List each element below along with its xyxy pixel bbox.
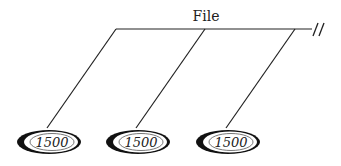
continuation-mark-icon [313,23,324,36]
diagram-title: File [193,8,220,24]
storage-node-2: 1500 [106,130,170,154]
node-label-1: 1500 [35,135,68,150]
storage-node-1: 1500 [17,130,81,154]
storage-node-3: 1500 [196,130,260,154]
branch-line-3 [226,29,295,128]
node-label-3: 1500 [214,135,247,150]
branch-line-1 [47,29,116,128]
diagram-svg: File 1500 1500 1500 [0,0,341,166]
branch-line-2 [136,29,205,128]
file-diagram: File 1500 1500 1500 [0,0,341,166]
node-label-2: 1500 [124,135,157,150]
